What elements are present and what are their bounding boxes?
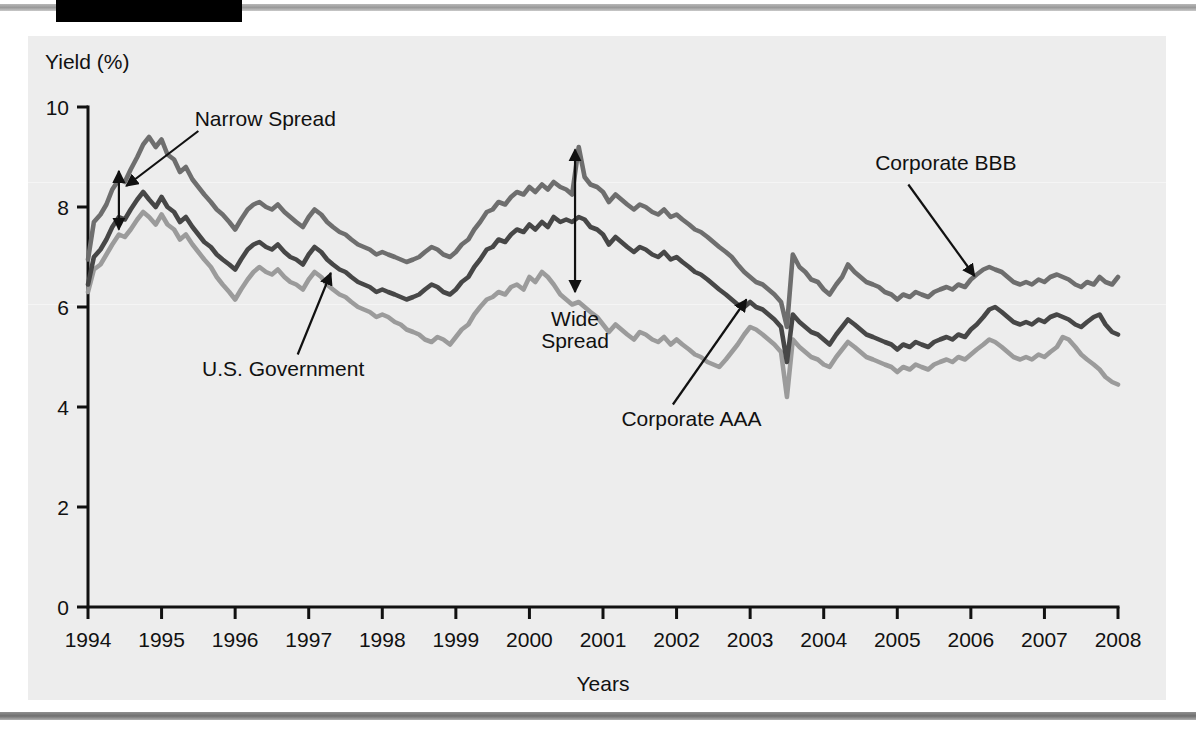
narrow-spread-label: Narrow Spread [195, 107, 336, 130]
figure-panel: 0246810199419951996199719981999200020012… [28, 36, 1166, 700]
x-tick-label: 2000 [506, 628, 553, 651]
y-tick-label: 10 [46, 96, 69, 119]
corporate-bbb-leader [908, 185, 974, 277]
y-tick-label: 2 [57, 496, 69, 519]
page-canvas: 0246810199419951996199719981999200020012… [0, 0, 1196, 731]
header-black-tab [56, 0, 242, 22]
x-axis-title: Years [577, 672, 630, 695]
y-tick-label: 6 [57, 296, 69, 319]
wide-spread-label-line1: Wide [551, 307, 599, 330]
corporate-aaa-label: Corporate AAA [621, 407, 761, 430]
x-tick-label: 2005 [874, 628, 921, 651]
x-tick-label: 2006 [947, 628, 994, 651]
x-tick-label: 1997 [285, 628, 332, 651]
x-tick-label: 2002 [653, 628, 700, 651]
y-tick-label: 8 [57, 196, 69, 219]
x-tick-label: 1995 [138, 628, 185, 651]
us-government-leader [298, 273, 331, 355]
corporate-bbb-label: Corporate BBB [875, 151, 1016, 174]
x-tick-label: 2004 [800, 628, 847, 651]
x-tick-label: 2001 [580, 628, 627, 651]
corporate-aaa-leader [673, 300, 747, 405]
x-tick-label: 1998 [359, 628, 406, 651]
x-tick-label: 1996 [212, 628, 259, 651]
y-tick-label: 0 [57, 596, 69, 619]
us-government-label: U.S. Government [202, 357, 364, 380]
y-axis-title: Yield (%) [45, 50, 129, 73]
y-tick-label: 4 [57, 396, 69, 419]
wide-spread-label-line2: Spread [541, 329, 609, 352]
footer-rule [0, 712, 1196, 720]
x-tick-label: 2007 [1021, 628, 1068, 651]
x-tick-label: 1994 [65, 628, 112, 651]
x-tick-label: 2008 [1095, 628, 1142, 651]
x-tick-label: 1999 [432, 628, 479, 651]
x-tick-label: 2003 [727, 628, 774, 651]
yield-spread-chart: 0246810199419951996199719981999200020012… [28, 36, 1166, 700]
